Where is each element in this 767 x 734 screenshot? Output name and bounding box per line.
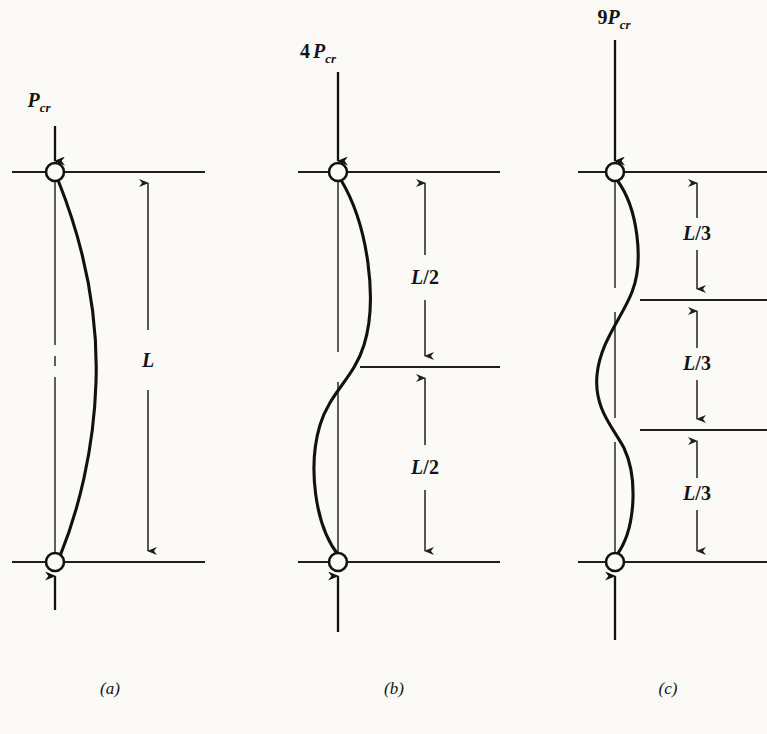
dimension-label-c-1: L/3 xyxy=(682,222,711,244)
dimension-label-c-2-main: L xyxy=(682,352,695,374)
pin-support-bottom-a xyxy=(46,553,64,571)
pin-support-bottom-b xyxy=(329,553,347,571)
buckled-shape-b xyxy=(314,180,370,556)
panel-caption-b: (b) xyxy=(384,679,404,698)
load-symbol-a: P xyxy=(26,89,40,111)
dimension-label-c-3-main: L xyxy=(682,482,695,504)
load-subscript-b: cr xyxy=(325,51,337,66)
buckling-modes-figure: Pcr L (a) xyxy=(0,0,767,734)
dimension-label-c-2-num: /3 xyxy=(694,352,711,374)
load-label-c: 9Pcr xyxy=(597,6,631,32)
panel-b: 4Pcr L/2 L/2 (b) xyxy=(298,40,500,698)
pin-support-bottom-c xyxy=(606,553,624,571)
dimension-label-b-1-num: /2 xyxy=(422,266,439,288)
pin-support-top-c xyxy=(606,163,624,181)
panel-a: Pcr L (a) xyxy=(12,89,205,698)
pin-support-top-a xyxy=(46,163,64,181)
panel-c: 9Pcr L/3 L/3 xyxy=(578,6,767,698)
buckled-shape-c xyxy=(597,180,638,556)
buckled-shape-a xyxy=(58,180,96,556)
dimension-label-b-1-main: L xyxy=(410,266,423,288)
dimension-label-a-1-main: L xyxy=(141,349,154,371)
pin-support-top-b xyxy=(329,163,347,181)
load-subscript-a: cr xyxy=(40,100,52,115)
load-coefficient-c: 9 xyxy=(597,6,607,28)
load-label-b: 4Pcr xyxy=(300,40,337,66)
load-label-a: Pcr xyxy=(26,89,51,115)
dimension-label-a-1: L xyxy=(141,349,154,371)
dimension-label-b-1: L/2 xyxy=(410,266,439,288)
dimension-label-c-3-num: /3 xyxy=(694,482,711,504)
dimension-label-c-2: L/3 xyxy=(682,352,711,374)
dimension-label-c-1-main: L xyxy=(682,222,695,244)
load-coefficient-b: 4 xyxy=(300,40,310,62)
load-symbol-c: P xyxy=(606,6,620,28)
dimension-label-c-3: L/3 xyxy=(682,482,711,504)
dimension-label-b-2: L/2 xyxy=(410,456,439,478)
load-subscript-c: cr xyxy=(620,17,632,32)
dimension-label-c-1-num: /3 xyxy=(694,222,711,244)
panel-caption-a: (a) xyxy=(100,679,120,698)
dimension-label-b-2-main: L xyxy=(410,456,423,478)
figure-root: Pcr L (a) xyxy=(0,0,767,734)
load-symbol-b: P xyxy=(312,40,326,62)
dimension-label-b-2-num: /2 xyxy=(422,456,439,478)
panel-caption-c: (c) xyxy=(659,679,678,698)
